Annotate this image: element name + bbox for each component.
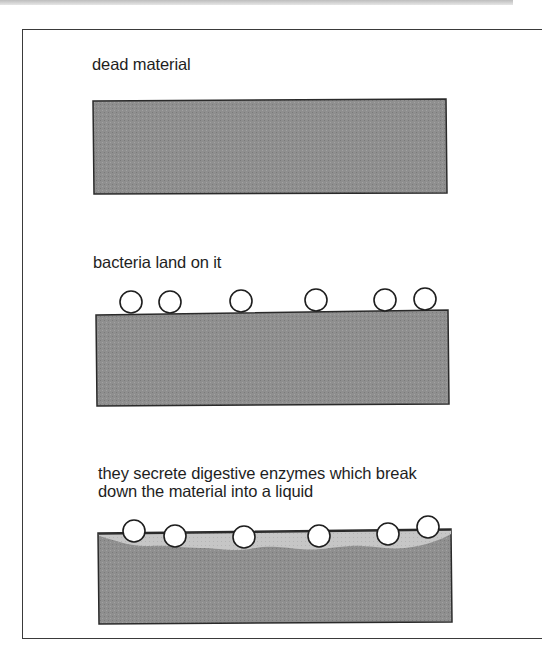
bacterium-icon [308, 525, 330, 547]
bacterium-icon [159, 291, 181, 313]
panel-1-material-block [93, 99, 447, 194]
bacterium-icon [230, 290, 252, 312]
bacterium-icon [233, 526, 255, 548]
bacterium-icon [164, 525, 186, 547]
bacterium-icon [414, 288, 436, 310]
bacterium-icon [377, 523, 399, 545]
bacterium-icon [417, 516, 439, 538]
bacterium-icon [123, 520, 145, 542]
bacterium-icon [120, 291, 142, 313]
bacterium-icon [305, 289, 327, 311]
bacterium-icon [374, 289, 396, 311]
panel-2-bacteria [120, 288, 436, 313]
panel-2-material-block [96, 310, 449, 406]
